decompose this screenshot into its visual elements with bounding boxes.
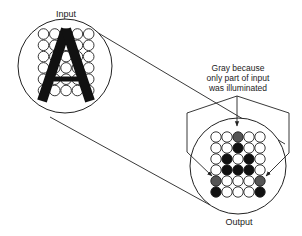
pixel-cell: [233, 132, 243, 142]
pixel-cell: [233, 187, 243, 197]
pixel-cell: [255, 165, 265, 175]
input-label: Input: [56, 9, 77, 19]
pixel-cell: [222, 154, 232, 164]
pixel-cell: [222, 165, 232, 175]
pixel-cell: [211, 143, 221, 153]
pixel-cell: [222, 132, 232, 142]
pixel-cell: [255, 187, 265, 197]
pixel-cell: [244, 187, 254, 197]
pixel-cell: [211, 187, 221, 197]
annotation-text-line1: Gray because: [212, 63, 265, 73]
pixel-cell: [83, 51, 94, 62]
pixel-cell: [244, 132, 254, 142]
pixel-cell: [255, 154, 265, 164]
pixel-cell: [211, 154, 221, 164]
annotation-text-line2: only part of input: [207, 73, 270, 83]
projection-line-bottom: [50, 117, 210, 205]
pixel-cell: [211, 132, 221, 142]
pixel-cell: [244, 165, 254, 175]
diagram-canvas: Input Output Gray because only part of i…: [0, 0, 302, 236]
pixel-cell: [244, 176, 254, 186]
output-label: Output: [225, 217, 253, 227]
pixel-cell: [211, 165, 221, 175]
pixel-cell: [244, 143, 254, 153]
pixel-cell: [38, 51, 49, 62]
pixel-cell: [38, 40, 49, 51]
pixel-cell: [211, 176, 221, 186]
pixel-cell: [233, 143, 243, 153]
pixel-cell: [233, 154, 243, 164]
pixel-cell: [233, 176, 243, 186]
pixel-cell: [222, 143, 232, 153]
pixel-cell: [255, 143, 265, 153]
pixel-cell: [83, 40, 94, 51]
pixel-cell: [38, 29, 49, 40]
pixel-cell: [83, 29, 94, 40]
pixel-cell: [61, 85, 72, 96]
annotation-text-line3: was illuminated: [208, 83, 267, 93]
pixel-cell: [222, 187, 232, 197]
pixel-cell: [244, 154, 254, 164]
pixel-cell: [233, 165, 243, 175]
pixel-cell: [255, 132, 265, 142]
pixel-cell: [222, 176, 232, 186]
pixel-cell: [61, 63, 72, 74]
pixel-cell: [255, 176, 265, 186]
